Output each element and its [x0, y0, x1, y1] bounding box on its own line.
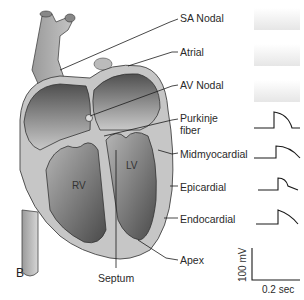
waveform-atrial [254, 44, 300, 66]
label-purkinje-fiber: fiber [180, 124, 200, 136]
label-septum: Septum [98, 272, 134, 284]
label-sa-nodal: SA Nodal [180, 12, 224, 24]
label-purkinje: Purkinje [180, 112, 218, 124]
label-rv: RV [72, 180, 86, 191]
label-epicardial: Epicardial [180, 181, 226, 193]
panel-label: B [16, 266, 24, 280]
waveform-sa-nodal [254, 8, 300, 30]
scale-time: 0.2 sec [262, 284, 294, 296]
label-endocardial: Endocardial [180, 213, 235, 225]
cardiac-action-potential-diagram: SA Nodal Atrial AV Nodal Purkinje fiber … [0, 0, 304, 300]
label-lv: LV [126, 160, 138, 171]
label-midmyocardial: Midmyocardial [180, 148, 248, 160]
label-apex: Apex [180, 254, 204, 266]
waveform-av-nodal [254, 80, 300, 102]
label-av-nodal: AV Nodal [180, 79, 224, 91]
label-atrial: Atrial [180, 46, 204, 58]
scale-voltage: 100 mV [237, 248, 248, 282]
